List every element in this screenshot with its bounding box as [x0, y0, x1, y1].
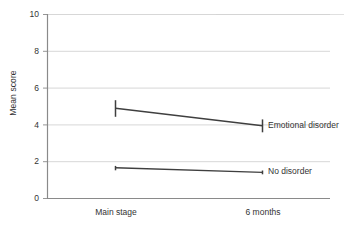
y-tick-label-0: 0: [17, 193, 39, 203]
x-tick-label-main-stage: Main stage: [80, 207, 152, 217]
series-emotional-disorder: [116, 100, 263, 132]
series-label-emotional-disorder: Emotional disorder: [268, 120, 339, 130]
y-tick-label-4: 4: [17, 120, 39, 130]
y-tick-marks: [43, 15, 48, 199]
line-emotional-disorder: [116, 108, 263, 126]
y-axis-title: Mean score: [8, 58, 18, 128]
y-tick-label-6: 6: [17, 83, 39, 93]
chart-container: Mean score 10 8 6 4 2 0 Main stage 6 mon…: [0, 0, 347, 232]
gridlines: [47, 15, 330, 162]
series-no-disorder: [116, 166, 263, 174]
y-tick-label-8: 8: [17, 46, 39, 56]
series-label-no-disorder: No disorder: [268, 166, 312, 176]
chart-plot-area: [0, 0, 347, 232]
x-tick-label-6-months: 6 months: [228, 207, 298, 217]
y-tick-label-10: 10: [17, 9, 39, 19]
line-no-disorder: [116, 168, 263, 173]
y-tick-label-2: 2: [17, 156, 39, 166]
